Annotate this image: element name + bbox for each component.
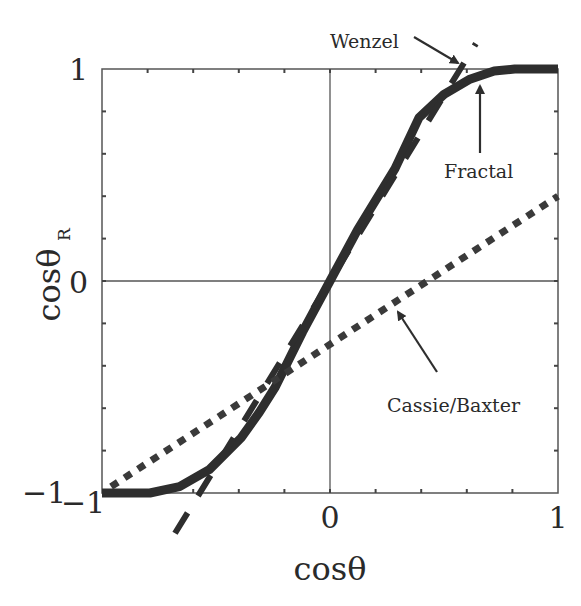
y-tick-neg1: −1 xyxy=(22,475,66,510)
cassie-baxter-arrow-icon xyxy=(398,312,437,372)
fractal-label: Fractal xyxy=(444,160,513,182)
wenzel-label: Wenzel xyxy=(330,30,399,52)
y-axis-label-sub: R xyxy=(54,227,74,241)
x-tick-neg1: −1 xyxy=(61,485,105,520)
contact-angle-chart: Wenzel Fractal Cassie/Baxter −1 0 1 1 0 … xyxy=(0,0,581,606)
y-axis-label-main: cosθ xyxy=(30,249,68,322)
y-axis-label: cosθ R xyxy=(30,227,74,321)
cassie-baxter-label: Cassie/Baxter xyxy=(387,394,521,416)
x-tick-0: 0 xyxy=(320,500,339,535)
cassie-baxter-line xyxy=(111,196,558,486)
y-tick-1: 1 xyxy=(69,52,88,87)
x-tick-1: 1 xyxy=(548,500,567,535)
x-axis-label: cosθ xyxy=(294,550,367,588)
y-tick-0: 0 xyxy=(69,265,88,300)
tick-labels: −1 0 1 1 0 −1 xyxy=(22,52,568,535)
wenzel-arrow-icon xyxy=(414,37,458,63)
